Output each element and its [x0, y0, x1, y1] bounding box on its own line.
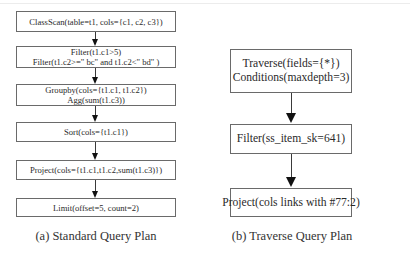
arrow-down-icon — [92, 39, 98, 46]
node-text: Limit(offset=5, count=2) — [53, 203, 139, 213]
node-traverse: Traverse(fields={*}) Conditions(maxdepth… — [230, 49, 352, 93]
arrow-down-icon — [92, 115, 98, 122]
arrow-down-icon — [92, 153, 98, 160]
node-filter: Filter(ss_item_sk=641) — [230, 124, 352, 154]
node-project: Project(cols={t1.c1,t1.c2,sum(t1.c3)}) — [16, 160, 176, 180]
node-text: Filter(ss_item_sk=641) — [237, 132, 345, 146]
node-text: Conditions(maxdepth=3) — [233, 71, 350, 85]
node-text: Filter(t1.c2>=" bc" and t1.c2<" bd" ) — [33, 57, 160, 67]
node-text: Traverse(fields={*}) — [242, 57, 339, 71]
connector-line — [291, 154, 292, 178]
connector-line — [95, 68, 96, 77]
caption-traverse-plan: (b) Traverse Query Plan — [222, 229, 362, 244]
node-text: ClassScan(table=t1, cols={c1, c2, c3}) — [29, 17, 162, 27]
node-text: Project(cols links with #77:2) — [222, 196, 360, 210]
connector-line — [291, 93, 292, 114]
arrow-down-icon — [92, 77, 98, 84]
node-text: Sort(cols={t1.c1}) — [64, 127, 128, 137]
top-divider-line — [0, 3, 410, 4]
arrow-down-icon — [286, 113, 296, 123]
connector-line — [95, 106, 96, 115]
node-filter: Filter(t1.c1>5) Filter(t1.c2>=" bc" and … — [16, 46, 176, 68]
node-project: Project(cols links with #77:2) — [230, 188, 352, 217]
node-classscan: ClassScan(table=t1, cols={c1, c2, c3}) — [16, 11, 176, 32]
node-limit: Limit(offset=5, count=2) — [16, 198, 176, 217]
caption-standard-plan: (a) Standard Query Plan — [16, 229, 176, 244]
node-text: Project(cols={t1.c1,t1.c2,sum(t1.c3)}) — [30, 165, 162, 175]
arrow-down-icon — [286, 177, 296, 187]
node-text: Agg(sum(t1.c3)) — [67, 95, 125, 105]
node-text: Filter(t1.c1>5) — [71, 47, 121, 57]
connector-line — [95, 180, 96, 191]
node-text: Groupby(cols={t1.c1, t1.c2}) — [45, 85, 146, 95]
node-sort: Sort(cols={t1.c1}) — [16, 122, 176, 142]
node-groupby: Groupby(cols={t1.c1, t1.c2}) Agg(sum(t1.… — [16, 84, 176, 106]
arrow-down-icon — [92, 191, 98, 198]
connector-line — [95, 142, 96, 153]
